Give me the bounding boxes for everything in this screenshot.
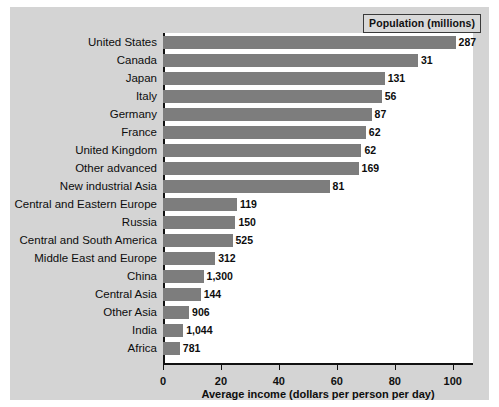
bar-row: 131Japan [163,72,473,85]
x-axis-tick [163,364,164,370]
bar-row: 62France [163,126,473,139]
bar [163,90,382,103]
bar-row: 287United States [163,36,473,49]
bar-value-label: 119 [237,198,257,211]
bar [163,180,330,193]
bar [163,216,235,229]
bar-row: 525Central and South America [163,234,473,247]
bar-value-label: 131 [385,72,406,85]
x-axis-tick [395,364,396,370]
category-label: Germany [110,108,157,121]
category-label: Central and South America [20,234,157,247]
chart-figure: Population (millions) 020406080100287Uni… [10,7,489,400]
x-axis-tick-label: 20 [215,375,227,387]
bar [163,252,215,265]
bar-value-label: 1,044 [183,324,212,337]
category-label: Africa [128,342,157,355]
bar-row: 1,044India [163,324,473,337]
bar [163,126,366,139]
x-axis-label: Average income (dollars per person per d… [163,388,473,400]
bar-value-label: 56 [382,90,397,103]
plot-area: 020406080100287United States31Canada131J… [163,33,473,365]
bar [163,234,233,247]
bar-value-label: 144 [201,288,222,301]
category-label: Central Asia [95,288,157,301]
x-axis-tick-label: 60 [331,375,343,387]
bar-row: 312Middle East and Europe [163,252,473,265]
bar-value-label: 62 [366,126,381,139]
bar-row: 62United Kingdom [163,144,473,157]
category-label: Other Asia [103,306,157,319]
category-label: Central and Eastern Europe [14,198,157,211]
bar [163,162,359,175]
bar-value-label: 525 [233,234,254,247]
category-label: France [121,126,157,139]
category-label: India [132,324,157,337]
bar [163,342,180,355]
x-axis-tick [279,364,280,370]
x-axis-tick-label: 0 [160,375,166,387]
bar-value-label: 150 [235,216,256,229]
bar-row: 119Central and Eastern Europe [163,198,473,211]
category-label: Canada [117,54,157,67]
bar-row: 81New industrial Asia [163,180,473,193]
bar [163,324,183,337]
category-label: United States [88,36,157,49]
legend-title: Population (millions) [363,14,481,33]
bar [163,144,361,157]
bar-row: 56Italy [163,90,473,103]
category-label: Middle East and Europe [34,252,157,265]
bar-value-label: 169 [359,162,380,175]
bar-row: 906Other Asia [163,306,473,319]
bar-value-label: 62 [361,144,376,157]
bar [163,198,237,211]
bar [163,288,201,301]
bar [163,72,385,85]
x-axis-tick [453,364,454,370]
x-axis-line [163,363,473,365]
bar [163,108,372,121]
bar [163,270,204,283]
bar [163,36,456,49]
bar-row: 781Africa [163,342,473,355]
category-label: China [127,270,157,283]
bar-row: 1,300China [163,270,473,283]
category-label: Japan [126,72,157,85]
x-axis-tick [337,364,338,370]
x-axis-tick-label: 100 [444,375,462,387]
bar-value-label: 31 [418,54,433,67]
x-axis-tick-label: 40 [273,375,285,387]
bar [163,54,418,67]
category-label: Russia [122,216,157,229]
x-axis-tick-label: 80 [389,375,401,387]
bar [163,306,189,319]
bar-row: 31Canada [163,54,473,67]
bar-value-label: 312 [215,252,236,265]
category-label: United Kingdom [75,144,157,157]
bar-value-label: 906 [189,306,210,319]
category-label: New industrial Asia [60,180,157,193]
bar-row: 87Germany [163,108,473,121]
bar-value-label: 781 [180,342,201,355]
bar-row: 150Russia [163,216,473,229]
bar-value-label: 1,300 [204,270,233,283]
bar-row: 144Central Asia [163,288,473,301]
x-axis-tick [221,364,222,370]
category-label: Other advanced [75,162,157,175]
bar-row: 169Other advanced [163,162,473,175]
category-label: Italy [136,90,157,103]
bar-value-label: 287 [456,36,477,49]
bar-value-label: 87 [372,108,387,121]
bar-value-label: 81 [330,180,345,193]
